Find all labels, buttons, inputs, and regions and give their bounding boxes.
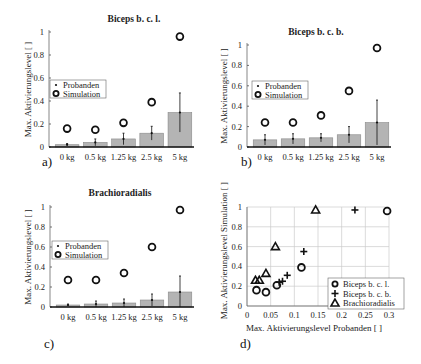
- y-tick-label: 0: [238, 301, 242, 311]
- legend-label: Simulation: [65, 250, 103, 260]
- chart-biceps-bcl: Biceps b. c. l.Max. Aktivierungslevel [ …: [23, 14, 194, 162]
- probanden-dot-icon: [95, 303, 97, 305]
- chart-title: Biceps b. c. b.: [288, 27, 343, 37]
- circle-marker-icon: [148, 99, 155, 106]
- y-tick-label: 0: [40, 142, 44, 152]
- x-tick-label: 5 kg: [172, 152, 188, 162]
- y-tick-label: 0.8: [231, 60, 242, 70]
- y-tick-label: 0.4: [34, 262, 45, 272]
- probanden-dot-icon: [94, 141, 96, 143]
- circle-marker-icon: [253, 287, 260, 294]
- y-tick-label: 0.8: [231, 222, 242, 232]
- probanden-dot-icon: [66, 144, 68, 146]
- x-tick-label: 1.25 kg: [111, 312, 137, 322]
- probanden-dot-icon: [179, 111, 181, 113]
- y-tick-label: 1: [238, 40, 242, 50]
- circle-marker-icon: [64, 125, 71, 132]
- y-tick-label: 0.6: [33, 73, 44, 83]
- x-tick-label: 1.25 kg: [308, 152, 334, 162]
- circle-marker-icon: [92, 126, 99, 133]
- probanden-dot-icon: [292, 138, 294, 140]
- circle-marker-icon: [65, 277, 72, 284]
- x-tick-label: 0.5 kg: [85, 152, 107, 162]
- legend: ProbandenSimulation: [252, 81, 308, 100]
- y-tick-label: 0.4: [231, 101, 242, 111]
- y-tick-label: 1: [41, 202, 45, 212]
- probanden-dot-icon: [123, 302, 125, 304]
- y-axis-label: Max. Aktivierungslevel Simulation [ ]: [219, 182, 229, 319]
- y-tick-label: 0.6: [34, 242, 45, 252]
- x-tick-label: 0.5 kg: [85, 312, 107, 322]
- legend: ProbandenSimulation: [50, 80, 106, 99]
- x-tick-label: 0.05: [263, 310, 278, 320]
- triangle-marker-icon: [262, 269, 270, 276]
- x-tick-label: 2.5 kg: [338, 152, 360, 162]
- y-tick-label: 0.6: [231, 81, 242, 91]
- circle-marker-icon: [290, 119, 297, 126]
- y-tick-label: 0.2: [33, 119, 44, 129]
- y-tick-label: 0.2: [231, 122, 242, 132]
- y-axis-label: Max. Aktivierungslevel [ ]: [219, 48, 229, 143]
- y-tick-label: 0.2: [34, 282, 45, 292]
- x-tick-label: 0.15: [311, 310, 326, 320]
- probanden-dot-icon: [67, 304, 69, 306]
- circle-marker-icon: [120, 119, 127, 126]
- probanden-dot-icon: [257, 85, 259, 87]
- x-tick-label: 0.5 kg: [282, 152, 304, 162]
- circle-marker-icon: [262, 119, 269, 126]
- circle-marker-icon: [298, 264, 305, 271]
- circle-marker-icon: [384, 208, 391, 215]
- legend: Biceps b. c. l.Biceps b. c. b.Brachiorad…: [328, 278, 404, 309]
- x-tick-label: 0.2: [336, 310, 347, 320]
- x-axis-label: Max. Aktivierungslevel Probanden [ ]: [246, 323, 382, 333]
- x-tick-label: 5 kg: [370, 152, 386, 162]
- x-tick-label: 0 kg: [61, 312, 77, 322]
- y-tick-label: 0.4: [33, 96, 44, 106]
- circle-marker-icon: [263, 289, 270, 296]
- x-tick-label: 0.25: [358, 310, 373, 320]
- legend-label: Biceps b. c. l.: [343, 279, 389, 289]
- chart-brachioradialis: BrachioradialisMax. Aktivierungslevel [ …: [23, 188, 194, 322]
- x-tick-label: 2.5 kg: [141, 312, 163, 322]
- legend-label: Biceps b. c. b.: [343, 289, 391, 299]
- y-tick-label: 1: [40, 27, 44, 37]
- probanden-dot-icon: [348, 134, 350, 136]
- y-tick-label: 0.2: [231, 281, 242, 291]
- x-tick-label: 0 kg: [60, 152, 76, 162]
- probanden-dot-icon: [151, 299, 153, 301]
- figure: Biceps b. c. l.Max. Aktivierungslevel [ …: [0, 0, 421, 364]
- circle-marker-icon: [374, 45, 381, 52]
- legend: ProbandenSimulation: [52, 241, 108, 260]
- y-axis-label: Max. Aktivierungslevel [ ]: [23, 42, 33, 137]
- x-tick-label: 0.1: [289, 310, 300, 320]
- x-tick-label: 5 kg: [173, 312, 189, 322]
- probanden-dot-icon: [151, 132, 153, 134]
- y-tick-label: 0.8: [33, 50, 44, 60]
- x-tick-label: 0: [245, 310, 249, 320]
- circle-marker-icon: [93, 277, 100, 284]
- x-tick-label: 2.5 kg: [141, 152, 163, 162]
- y-tick-label: 0.6: [231, 242, 242, 252]
- probanden-dot-icon: [179, 291, 181, 293]
- legend-label: Simulation: [265, 90, 303, 100]
- probanden-dot-icon: [376, 121, 378, 123]
- probanden-dot-icon: [57, 245, 59, 247]
- panel-label-d: d): [240, 336, 251, 352]
- y-tick-label: 0.4: [231, 261, 242, 271]
- x-tick-label: 0.3: [384, 310, 395, 320]
- probanden-dot-icon: [122, 138, 124, 140]
- probanden-dot-icon: [55, 84, 57, 86]
- circle-marker-icon: [346, 88, 353, 95]
- y-axis-label: Max. Aktivierungslevel [ ]: [23, 209, 33, 304]
- y-tick-label: 1: [238, 202, 242, 212]
- probanden-dot-icon: [320, 137, 322, 139]
- triangle-marker-icon: [271, 243, 279, 250]
- circle-marker-icon: [149, 244, 156, 251]
- panel-label-c: c): [44, 336, 54, 352]
- panel-label-b: b): [241, 154, 252, 170]
- chart-title: Biceps b. c. l.: [108, 14, 161, 24]
- x-tick-label: 0 kg: [258, 152, 274, 162]
- legend-label: Brachioradialis: [343, 298, 395, 308]
- probanden-dot-icon: [264, 139, 266, 141]
- panel-label-a: a): [42, 154, 52, 170]
